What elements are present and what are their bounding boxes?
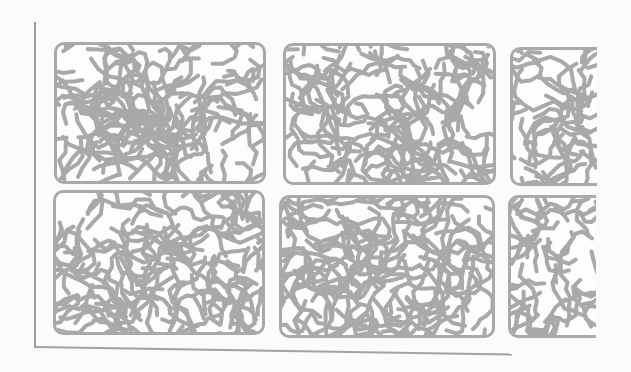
pattern-panel-r2c3 xyxy=(508,195,596,338)
figure xyxy=(0,0,631,372)
labyrinth-pattern xyxy=(511,198,596,335)
pattern-panel-r2c2 xyxy=(279,195,495,338)
labyrinth-pattern xyxy=(56,193,262,332)
labyrinth-pattern xyxy=(513,50,597,183)
pattern-panel-r2c1 xyxy=(53,190,265,335)
pattern-panel-r1c2 xyxy=(283,43,496,185)
labyrinth-pattern xyxy=(282,198,492,335)
horizontal-axis-line xyxy=(34,346,512,356)
pattern-panel-r1c1 xyxy=(54,42,266,184)
labyrinth-pattern xyxy=(286,46,493,182)
pattern-panel-r1c3 xyxy=(510,47,597,186)
vertical-axis-line xyxy=(34,22,36,346)
labyrinth-pattern xyxy=(57,45,263,181)
